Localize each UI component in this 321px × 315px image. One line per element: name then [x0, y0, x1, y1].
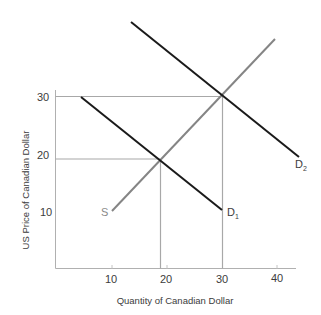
d2-label: D2 [295, 158, 307, 172]
x-axis-title: Quantity of Canadian Dollar [117, 295, 234, 306]
axes [56, 90, 297, 269]
x-tick-label-30: 30 [216, 273, 228, 285]
d2-label-subscript: 2 [303, 165, 307, 172]
supply-label: S [101, 206, 108, 218]
x-tick-label-40: 40 [271, 272, 283, 284]
d1-label: D1 [227, 206, 239, 220]
d1-label-subscript: 1 [235, 213, 239, 220]
supply-curve-s [112, 39, 275, 211]
y-tick-label-20: 20 [37, 149, 49, 161]
curves [81, 22, 299, 211]
x-tick-label-10: 10 [105, 273, 117, 285]
supply-demand-chart: 30 20 10 10 20 30 40 Quantity of Canadia… [0, 0, 321, 315]
demand-curve-d1 [81, 97, 222, 210]
y-tick-label-30: 30 [37, 91, 49, 103]
y-tick-label-10: 10 [40, 206, 52, 218]
d1-label-main: D [227, 206, 235, 218]
demand-curve-d2 [131, 22, 299, 157]
x-tick-label-20: 20 [160, 273, 172, 285]
d2-label-main: D [295, 158, 303, 170]
y-axis-title: US Price of Canadian Dollar [20, 131, 31, 250]
